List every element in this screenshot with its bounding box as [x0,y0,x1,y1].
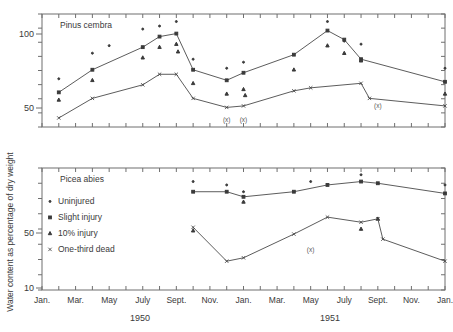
x-tick-label: July [337,295,353,305]
x-tick-label: July [135,295,151,305]
data-point [444,192,447,195]
data-point [360,180,363,183]
x-tick-label: Nov. [403,295,420,305]
x-tick-label: Sept. [368,295,388,305]
data-point [326,184,329,187]
series-one-third-dead [191,215,446,262]
data-point [243,93,246,96]
year-label: 1951 [320,313,340,323]
legend-label: Uninjured [58,196,95,206]
figure-container: Water content as percentage of dry weigh… [0,0,453,332]
data-point [243,61,245,63]
data-point [444,67,446,69]
data-point [242,200,245,203]
data-point [158,35,161,38]
data-point [292,232,295,235]
data-point [292,53,295,56]
data-point [91,68,94,71]
series-polyline [193,217,445,261]
x-tick-label: Jan. [34,295,50,305]
data-point [175,32,178,35]
data-point [192,58,194,60]
x-tick-label: May [101,295,118,305]
data-point [159,25,161,27]
data-point [360,43,362,45]
legend-marker-cross [48,248,51,251]
legend-label: 10% injury [58,228,98,238]
y-tick-label: 10 [24,283,34,293]
x-tick-label: Mar. [67,295,84,305]
annotation-x: (x) [240,116,248,124]
data-point [191,81,194,84]
data-point [141,56,144,59]
data-point [57,91,60,94]
data-point [292,190,295,193]
x-tick-label: Jan. [437,295,453,305]
data-point [343,38,346,41]
data-point [443,92,446,95]
data-point [376,182,379,185]
data-point [226,67,228,69]
series-uninjured [192,174,446,193]
data-point [326,21,328,23]
data-point [91,78,94,81]
series-one-third-dead [57,73,447,120]
series-polyline [59,31,445,93]
data-point [359,227,362,230]
y-axis-label: Water content as percentage of dry weigh… [5,152,15,312]
legend-marker-square [49,216,52,219]
data-point [57,116,60,119]
annotation-x: (x) [307,246,315,254]
data-point [141,46,144,49]
data-point [225,79,228,82]
data-point [158,45,161,48]
data-point [192,181,194,183]
data-point [175,21,177,23]
data-point [243,191,245,193]
data-point [360,174,362,176]
data-point [108,45,110,47]
data-point [176,50,179,53]
x-tick-label: Nov. [201,295,218,305]
plot-frame [42,168,445,290]
data-point [242,71,245,74]
data-point [192,190,195,193]
x-tick-label: Mar. [269,295,286,305]
x-tick-label: Jan. [235,295,251,305]
legend-label: One-third dead [58,244,115,254]
data-point [326,44,329,47]
panel-pinus-cembra: 10050Pinus cembra(x)(x)(x) [19,14,447,127]
series-uninjured [58,21,446,80]
y-tick-label: 100 [19,29,34,39]
water-content-figure: Water content as percentage of dry weigh… [0,0,453,332]
data-point [326,29,329,32]
x-tick-label: Sept. [166,295,186,305]
data-point [91,52,93,54]
data-point [192,68,195,71]
legend-marker-dot-small [49,200,51,202]
data-point [58,78,60,80]
series-slight-injury [57,29,446,94]
series-10-injury [191,200,379,232]
data-point [142,28,144,30]
data-point [343,51,346,54]
y-tick-label: 50 [24,103,34,113]
data-point [225,190,228,193]
data-point [444,184,446,186]
annotation-x: (x) [223,116,231,124]
series-polyline [59,74,445,118]
year-label: 1950 [130,313,150,323]
legend-marker-triangle [48,232,51,235]
data-point [292,68,295,71]
data-point [226,184,228,186]
y-tick-label: 50 [24,228,34,238]
annotation-x: (x) [374,102,382,110]
data-point [242,87,245,90]
plot-frame [42,14,445,127]
data-point [310,181,312,183]
legend-label: Slight injury [58,212,103,222]
species-label: Pinus cembra [60,20,112,30]
series-polyline [193,182,445,197]
data-point [175,42,178,45]
series-slight-injury [192,180,447,198]
